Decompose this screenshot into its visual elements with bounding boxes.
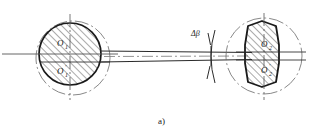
shaft-centerline xyxy=(104,56,250,57)
angle-deviation-label: Δβ xyxy=(190,29,200,38)
shaft-lower-edge xyxy=(100,60,252,63)
left-lower-label-subscript: 1 xyxy=(65,72,68,78)
left-upper-label: O xyxy=(57,38,64,48)
angle-tick-upper xyxy=(208,33,211,45)
figure-canvas: O 1 O 1 ' Δβ xyxy=(0,0,324,134)
left-lower-label: O xyxy=(57,66,64,76)
right-upper-label-subscript: 2 xyxy=(269,45,272,51)
engineering-drawing-figure: O 1 O 1 ' Δβ xyxy=(0,0,324,134)
angle-tick-lower xyxy=(207,66,210,79)
figure-caption: a) xyxy=(158,116,165,126)
right-lower-label-subscript: 2 xyxy=(269,71,272,77)
left-hatch-fill xyxy=(30,15,115,100)
right-lower-label: O xyxy=(261,65,268,75)
shaft-upper-edge xyxy=(100,51,252,53)
left-upper-label-subscript: 1 xyxy=(65,44,68,50)
right-upper-label: O xyxy=(261,39,268,49)
